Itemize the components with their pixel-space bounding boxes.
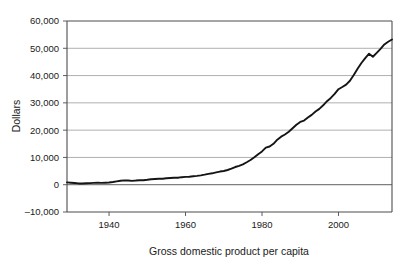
y-tick-label-50000: 50,000 (30, 43, 59, 54)
y-tick-label-0: 0 (54, 179, 59, 190)
y-tick-label-20000: 20,000 (30, 125, 59, 136)
y-axis-title: Dollars (10, 100, 22, 133)
y-tick-label-60000: 60,000 (30, 15, 59, 26)
y-tick-label--10000: –10,000 (25, 206, 59, 217)
chart-figure: –10,000010,00020,00030,00040,00050,00060… (0, 0, 404, 265)
gdp-per-capita-line-chart: –10,000010,00020,00030,00040,00050,00060… (0, 0, 404, 265)
y-tick-label-40000: 40,000 (30, 70, 59, 81)
x-tick-label-1960: 1960 (175, 219, 196, 230)
y-tick-label-30000: 30,000 (30, 97, 59, 108)
x-axis-title: Gross domestic product per capita (149, 245, 309, 257)
x-tick-label-1980: 1980 (251, 219, 272, 230)
x-tick-label-2000: 2000 (328, 219, 349, 230)
y-tick-label-10000: 10,000 (30, 152, 59, 163)
x-tick-label-1940: 1940 (98, 219, 119, 230)
